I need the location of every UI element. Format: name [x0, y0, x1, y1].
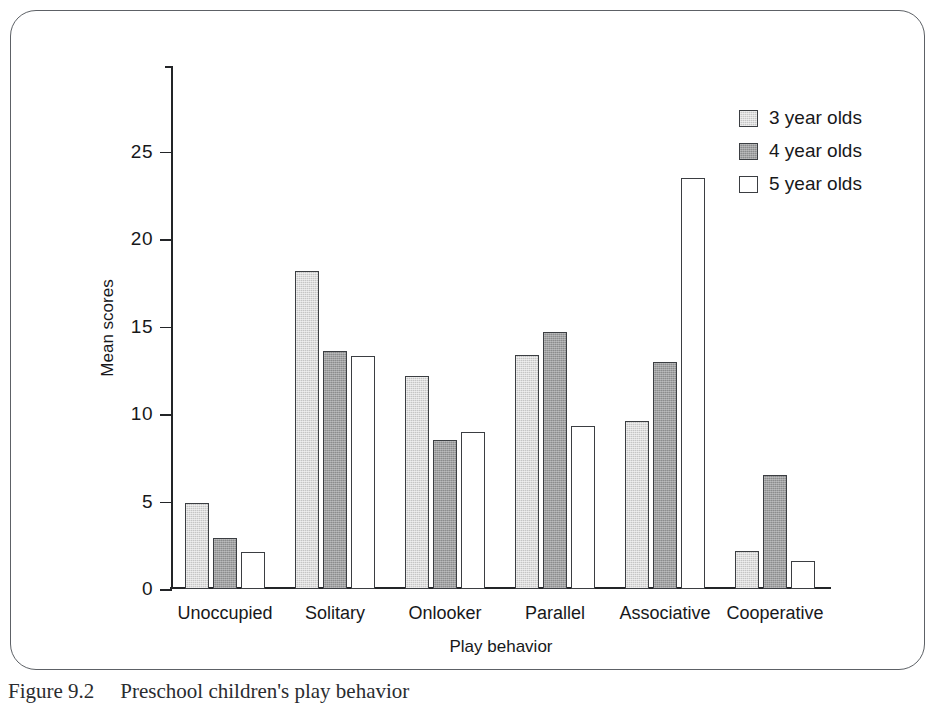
bar[interactable]: [515, 355, 539, 589]
bar[interactable]: [625, 421, 649, 589]
legend-item[interactable]: 3 year olds: [739, 107, 862, 129]
legend-swatch: [739, 143, 758, 160]
y-axis-tick-label: 25: [131, 141, 153, 163]
bar[interactable]: [791, 561, 815, 589]
bar[interactable]: [295, 271, 319, 589]
x-axis-category-label: Cooperative: [726, 603, 823, 624]
legend-item[interactable]: 4 year olds: [739, 140, 862, 162]
y-axis-tick-label: 10: [131, 403, 153, 425]
y-axis-tick-mark: [160, 414, 172, 416]
figure-caption-number: Figure 9.2: [8, 679, 94, 703]
bar[interactable]: [571, 426, 595, 589]
y-axis-tick-mark: [160, 152, 172, 154]
bar[interactable]: [735, 551, 759, 589]
y-axis-tick-mark: [160, 502, 172, 504]
bar[interactable]: [323, 351, 347, 589]
x-axis-title: Play behavior: [449, 637, 552, 657]
bar-group: Associative: [625, 66, 705, 589]
bar-group: Onlooker: [405, 66, 485, 589]
x-axis-category-label: Unoccupied: [177, 603, 272, 624]
y-axis-tick-label: 20: [131, 228, 153, 250]
bar[interactable]: [461, 432, 485, 589]
x-axis-line: [170, 587, 831, 589]
bar-group: Solitary: [295, 66, 375, 589]
legend-item[interactable]: 5 year olds: [739, 173, 862, 195]
chart-legend: 3 year olds4 year olds5 year olds: [739, 107, 862, 195]
legend-swatch: [739, 110, 758, 127]
y-axis-tick-label: 5: [142, 491, 153, 513]
bar[interactable]: [241, 552, 265, 589]
x-axis-category-label: Solitary: [305, 603, 365, 624]
figure-frame: Mean scores 0510152025 UnoccupiedSolitar…: [10, 10, 925, 670]
bar[interactable]: [433, 440, 457, 589]
y-axis-tick-label: 15: [131, 316, 153, 338]
bar[interactable]: [213, 538, 237, 589]
y-axis-tick-label: 0: [142, 578, 153, 600]
x-axis-category-label: Onlooker: [408, 603, 481, 624]
x-axis-category-label: Parallel: [525, 603, 585, 624]
x-axis-category-label: Associative: [619, 603, 710, 624]
chart-plot-area: Mean scores 0510152025 UnoccupiedSolitar…: [171, 66, 831, 589]
bar[interactable]: [681, 178, 705, 589]
bar-group: Parallel: [515, 66, 595, 589]
y-axis-tick-mark: [160, 589, 172, 591]
y-axis-tick-mark: [160, 239, 172, 241]
y-axis-top-cap: [165, 66, 173, 68]
bar[interactable]: [185, 503, 209, 589]
legend-swatch: [739, 176, 758, 193]
bar[interactable]: [351, 356, 375, 589]
y-axis-title: Mean scores: [98, 279, 118, 376]
legend-label: 5 year olds: [769, 173, 862, 195]
bar[interactable]: [763, 475, 787, 589]
figure-caption-text: Preschool children's play behavior: [120, 679, 409, 703]
bar[interactable]: [543, 332, 567, 589]
legend-label: 3 year olds: [769, 107, 862, 129]
bar-group: Unoccupied: [185, 66, 265, 589]
bar[interactable]: [653, 362, 677, 589]
legend-label: 4 year olds: [769, 140, 862, 162]
bar[interactable]: [405, 376, 429, 589]
y-axis-tick-mark: [160, 327, 172, 329]
figure-caption: Figure 9.2Preschool children's play beha…: [8, 679, 933, 704]
